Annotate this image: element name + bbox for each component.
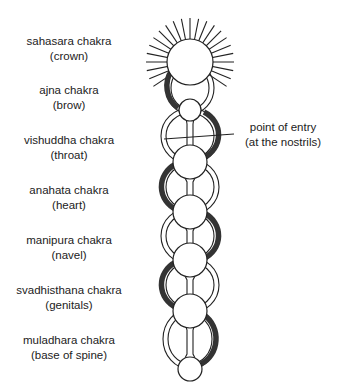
chakra-node-navel	[173, 243, 207, 277]
chakra-node-base	[178, 357, 202, 381]
chakra-nodes	[167, 39, 213, 381]
chakra-node-crown	[167, 39, 213, 85]
chakra-node-brow	[179, 99, 201, 121]
entry-pointer-line	[164, 134, 234, 139]
chakra-node-genitals	[173, 294, 207, 328]
chakra-column-diagram	[0, 0, 337, 392]
chakra-node-heart	[173, 195, 207, 229]
chakra-node-throat	[173, 145, 207, 179]
